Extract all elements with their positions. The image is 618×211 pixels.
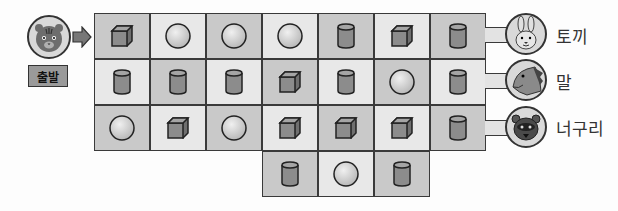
horse-head-icon	[505, 59, 547, 101]
cylinder-icon	[161, 65, 195, 99]
raccoon-face-icon	[505, 106, 547, 148]
cube-icon	[385, 19, 419, 53]
cylinder-icon	[329, 19, 363, 53]
cube-icon	[105, 19, 139, 53]
grid-cell-r2-c7	[430, 59, 486, 105]
cylinder-icon	[105, 65, 139, 99]
grid-cell-r3-c5	[318, 105, 374, 151]
cylinder-icon	[273, 157, 307, 191]
grid-cell-r4-c4	[262, 151, 318, 197]
sphere-icon	[161, 19, 195, 53]
cylinder-icon	[329, 65, 363, 99]
cylinder-icon	[385, 157, 419, 191]
sphere-icon	[329, 157, 363, 191]
grid-cell-r1-c7	[430, 13, 486, 59]
cylinder-icon	[441, 65, 475, 99]
grid-cell-r1-c5	[318, 13, 374, 59]
grid-cell-r2-c4	[262, 59, 318, 105]
cylinder-icon	[441, 19, 475, 53]
grid-cell-r1-c4	[262, 13, 318, 59]
grid-cell-r1-c1	[94, 13, 150, 59]
grid-cell-r2-c1	[94, 59, 150, 105]
cube-icon	[273, 111, 307, 145]
start-label: 출발	[37, 68, 59, 85]
grid-cell-r2-c5	[318, 59, 374, 105]
sphere-icon	[217, 19, 251, 53]
destination-label-raccoon: 너구리	[556, 115, 604, 140]
cube-icon	[161, 111, 195, 145]
grid-cell-r4-c6	[374, 151, 430, 197]
cube-icon	[273, 65, 307, 99]
destination-label-horse: 말	[556, 69, 572, 94]
sphere-icon	[273, 19, 307, 53]
maze-diagram: 출발	[0, 0, 618, 211]
tiger-face-icon	[27, 15, 71, 59]
cylinder-icon	[441, 111, 475, 145]
sphere-icon	[105, 111, 139, 145]
grid-cell-r2-c6	[374, 59, 430, 105]
grid-cell-r2-c3	[206, 59, 262, 105]
destination-label-rabbit: 토끼	[556, 23, 588, 48]
grid-cell-r3-c1	[94, 105, 150, 151]
rabbit-face-icon	[505, 13, 547, 55]
cylinder-icon	[217, 65, 251, 99]
arrow-right-icon	[72, 26, 92, 48]
grid-cell-r3-c3	[206, 105, 262, 151]
start-badge: 출발	[28, 65, 68, 87]
cube-icon	[329, 111, 363, 145]
grid-cell-r1-c3	[206, 13, 262, 59]
grid-cell-r3-c7	[430, 105, 486, 151]
grid-cell-r4-c5	[318, 151, 374, 197]
sphere-icon	[217, 111, 251, 145]
cube-icon	[385, 111, 419, 145]
grid-cell-r3-c4	[262, 105, 318, 151]
grid-cell-r3-c2	[150, 105, 206, 151]
grid-cell-r1-c6	[374, 13, 430, 59]
sphere-icon	[385, 65, 419, 99]
grid-cell-r1-c2	[150, 13, 206, 59]
grid-cell-r3-c6	[374, 105, 430, 151]
grid-cell-r2-c2	[150, 59, 206, 105]
